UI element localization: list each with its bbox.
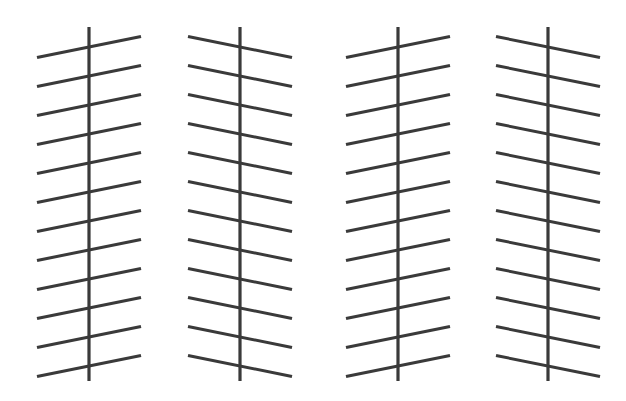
illusion-figure-container bbox=[0, 0, 626, 401]
zollner-illusion-svg bbox=[0, 0, 626, 401]
figure-background bbox=[0, 0, 626, 401]
